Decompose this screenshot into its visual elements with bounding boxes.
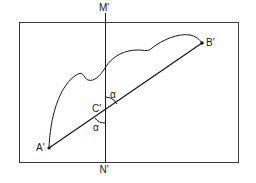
label-c: C' <box>92 103 101 114</box>
label-angle-lower: α <box>93 122 99 133</box>
label-angle-upper: α <box>110 89 116 100</box>
diagram-canvas: M' N' A' B' C' α α <box>0 0 256 183</box>
label-b: B' <box>206 37 215 48</box>
point-b-dot <box>200 41 204 45</box>
curve-ab <box>49 35 202 148</box>
label-a: A' <box>36 142 45 153</box>
label-n: N' <box>99 164 108 175</box>
label-m: M' <box>99 2 109 13</box>
point-a-dot <box>47 146 50 149</box>
segment-ab <box>49 43 202 148</box>
